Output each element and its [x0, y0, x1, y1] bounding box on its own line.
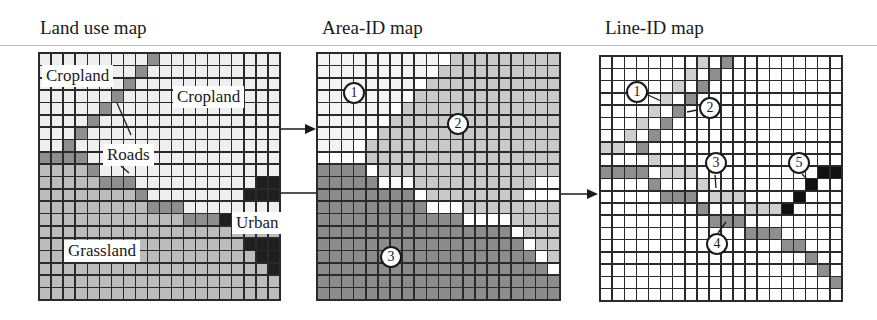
- grid-cell: [831, 155, 841, 166]
- grid-cell: [464, 153, 475, 164]
- grid-cell: [427, 140, 438, 151]
- grid-cell: [318, 251, 329, 262]
- grid-cell: [476, 66, 487, 77]
- grid-cell: [342, 103, 353, 114]
- grid-cell: [601, 57, 611, 68]
- grid-cell: [196, 276, 206, 287]
- grid-cell: [100, 227, 110, 238]
- grid-cell: [245, 288, 255, 299]
- grid-cell: [625, 179, 635, 190]
- grid-cell: [160, 227, 170, 238]
- grid-cell: [698, 253, 708, 264]
- land-use-map-title: Land use map: [40, 17, 147, 39]
- grid-cell: [354, 264, 365, 275]
- grid-cell: [476, 79, 487, 90]
- grid-cell: [613, 179, 623, 190]
- grid-cell: [379, 66, 390, 77]
- grid-cell: [391, 202, 402, 213]
- grid-cell: [40, 214, 50, 225]
- grid-cell: [746, 57, 756, 68]
- grid-cell: [124, 128, 134, 139]
- grid-cell: [734, 253, 744, 264]
- grid-cell: [415, 103, 426, 114]
- grid-cell: [124, 227, 134, 238]
- grid-cell: [524, 251, 535, 262]
- grid-cell: [710, 216, 720, 227]
- urban-label: Urban: [232, 212, 282, 234]
- grid-cell: [64, 91, 74, 102]
- grid-cell: [403, 177, 414, 188]
- grid-cell: [601, 216, 611, 227]
- grid-cell: [148, 264, 158, 275]
- grid-cell: [124, 116, 134, 127]
- grid-cell: [625, 106, 635, 117]
- grid-cell: [160, 103, 170, 114]
- grid-cell: [391, 227, 402, 238]
- grid-cell: [40, 288, 50, 299]
- grid-cell: [136, 190, 146, 201]
- grid-cell: [536, 264, 547, 275]
- grid-cell: [831, 240, 841, 251]
- grid-cell: [208, 239, 218, 250]
- grid-cell: [330, 54, 341, 65]
- grid-cell: [831, 167, 841, 178]
- grid-cell: [208, 54, 218, 65]
- grid-cell: [536, 54, 547, 65]
- grid-cell: [476, 54, 487, 65]
- grid-cell: [64, 288, 74, 299]
- grid-cell: [52, 140, 62, 151]
- grid-cell: [232, 165, 242, 176]
- grid-cell: [782, 81, 792, 92]
- grid-cell: [52, 227, 62, 238]
- grid-cell: [734, 69, 744, 80]
- grid-cell: [379, 103, 390, 114]
- grid-cell: [512, 264, 523, 275]
- grid-cell: [415, 251, 426, 262]
- grid-cell: [269, 239, 279, 250]
- grid-cell: [367, 264, 378, 275]
- grid-cell: [613, 240, 623, 251]
- line-badge-4: 4: [706, 233, 728, 255]
- grid-cell: [722, 289, 733, 300]
- grid-cell: [160, 202, 170, 213]
- grid-cell: [354, 227, 365, 238]
- grid-cell: [112, 214, 122, 225]
- grid-cell: [367, 54, 378, 65]
- grid-cell: [40, 239, 50, 250]
- grid-cell: [548, 251, 559, 262]
- grid-cell: [148, 202, 158, 213]
- grid-cell: [88, 214, 98, 225]
- grid-cell: [245, 264, 255, 275]
- grid-cell: [770, 94, 780, 105]
- grid-cell: [613, 289, 623, 300]
- grid-cell: [112, 66, 122, 77]
- grid-cell: [818, 289, 828, 300]
- grid-cell: [637, 277, 647, 288]
- grid-cell: [734, 130, 744, 141]
- grid-cell: [427, 128, 438, 139]
- grid-cell: [451, 177, 462, 188]
- grid-cell: [794, 192, 804, 203]
- grid-cell: [818, 240, 828, 251]
- grid-cell: [746, 192, 756, 203]
- grid-cell: [512, 153, 523, 164]
- grid-cell: [625, 228, 635, 239]
- grid-cell: [806, 179, 816, 190]
- grid-cell: [794, 94, 804, 105]
- grid-cell: [831, 69, 841, 80]
- grid-cell: [734, 57, 744, 68]
- grid-cell: [257, 103, 267, 114]
- grid-cell: [831, 204, 841, 215]
- grid-cell: [379, 153, 390, 164]
- grid-cell: [488, 202, 499, 213]
- grid-cell: [208, 177, 218, 188]
- grid-cell: [367, 227, 378, 238]
- grid-cell: [488, 116, 499, 127]
- grid-cell: [439, 264, 450, 275]
- grid-cell: [391, 276, 402, 287]
- grid-cell: [427, 276, 438, 287]
- grid-cell: [686, 240, 696, 251]
- grid-cell: [318, 239, 329, 250]
- grid-cell: [427, 153, 438, 164]
- grid-cell: [661, 289, 671, 300]
